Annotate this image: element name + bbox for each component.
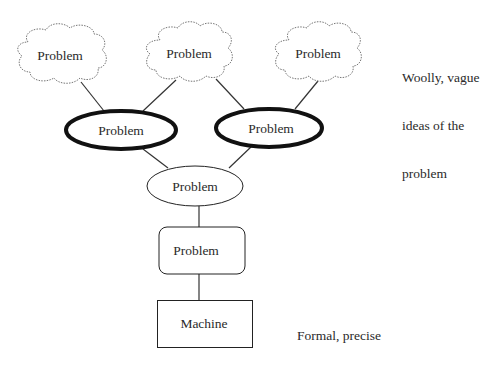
- cloud-node-3: Problem: [275, 22, 361, 82]
- ellipse-label: Problem: [248, 121, 294, 136]
- cloud-label: Problem: [295, 46, 341, 61]
- thick-ellipse-node-1: Problem: [66, 111, 176, 149]
- connector-ellipse2-middle: [229, 146, 252, 168]
- note-formal-statement: Formal, precise statement of the problem: [297, 296, 381, 365]
- connector-cloud1-ellipse1: [81, 82, 104, 111]
- thin-ellipse-node: Problem: [147, 166, 243, 206]
- note-woolly-ideas: Woolly, vague ideas of the problem: [402, 38, 480, 198]
- note-line: Woolly, vague: [402, 70, 480, 86]
- connector-cloud3-ellipse2: [295, 81, 318, 109]
- connector-cloud2-ellipse1: [143, 80, 176, 111]
- connector-cloud2-ellipse2: [216, 79, 244, 109]
- machine-box-node: Machine: [158, 301, 253, 348]
- machine-box-label: Machine: [180, 316, 227, 331]
- cloud-node-1: Problem: [18, 24, 107, 84]
- cloud-node-2: Problem: [146, 22, 232, 82]
- note-line: Formal, precise: [297, 328, 381, 344]
- ellipse-label: Problem: [172, 179, 218, 194]
- rounded-box-node: Problem: [159, 227, 245, 274]
- ellipse-label: Problem: [98, 123, 144, 138]
- note-line: ideas of the: [402, 118, 480, 134]
- note-line: problem: [402, 166, 480, 182]
- connector-ellipse1-middle: [143, 149, 168, 168]
- cloud-label: Problem: [166, 46, 212, 61]
- rounded-box-label: Problem: [173, 243, 219, 258]
- thick-ellipse-node-2: Problem: [216, 109, 322, 147]
- cloud-label: Problem: [37, 48, 83, 63]
